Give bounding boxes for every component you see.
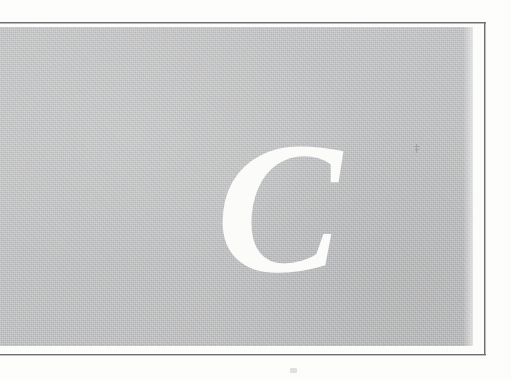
top-rule: [0, 22, 486, 23]
footer-smudge: [290, 368, 297, 373]
panel-edge-fade: [463, 27, 473, 346]
bottom-rule: [0, 354, 486, 355]
drop-cap-letter: C: [214, 118, 344, 298]
scanned-page: C Scanned page: large white italic drop …: [0, 0, 511, 379]
right-rule: [484, 22, 485, 355]
